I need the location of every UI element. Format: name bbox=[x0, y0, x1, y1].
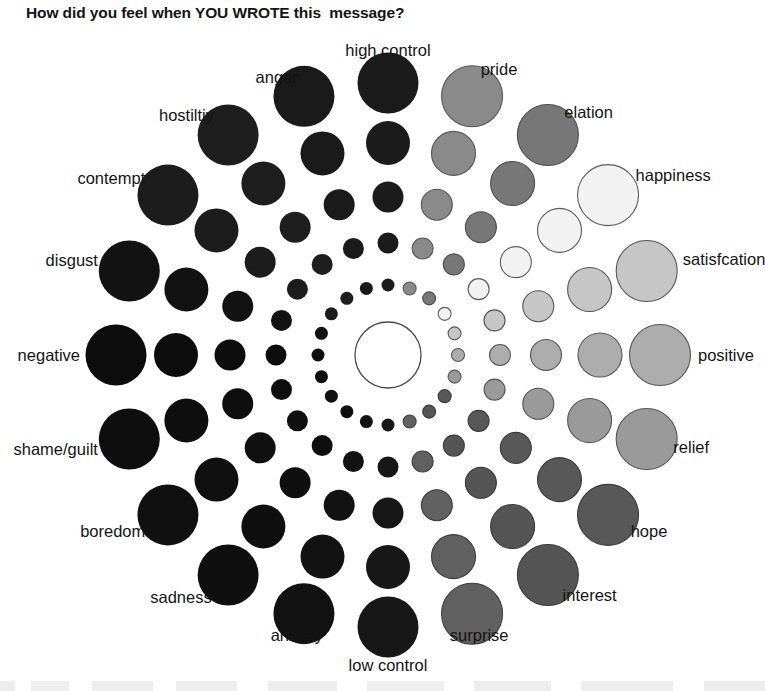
emotion-circle[interactable] bbox=[538, 208, 582, 252]
emotion-circle[interactable] bbox=[312, 349, 325, 362]
emotion-circle[interactable] bbox=[484, 379, 505, 400]
emotion-circle[interactable] bbox=[531, 340, 562, 371]
emotion-circle[interactable] bbox=[538, 458, 582, 502]
emotion-circle[interactable] bbox=[324, 189, 355, 220]
emotion-circle[interactable] bbox=[421, 490, 452, 521]
emotion-circle[interactable] bbox=[568, 399, 612, 443]
emotion-circle[interactable] bbox=[432, 535, 476, 579]
emotion-circle[interactable] bbox=[500, 432, 531, 463]
emotion-circle[interactable] bbox=[154, 333, 198, 377]
emotion-circle[interactable] bbox=[137, 484, 198, 545]
emotion-circle[interactable] bbox=[245, 432, 276, 463]
emotion-circle[interactable] bbox=[568, 267, 612, 311]
emotion-circle[interactable] bbox=[373, 498, 404, 529]
emotion-circle[interactable] bbox=[287, 279, 308, 300]
emotion-circle[interactable] bbox=[360, 415, 373, 428]
emotion-circle[interactable] bbox=[443, 254, 464, 275]
emotion-circle[interactable] bbox=[164, 267, 208, 311]
emotion-circle[interactable] bbox=[194, 458, 238, 502]
emotion-circle[interactable] bbox=[222, 291, 253, 322]
center-circle[interactable] bbox=[355, 322, 421, 388]
emotion-circle[interactable] bbox=[468, 410, 489, 431]
emotion-circle[interactable] bbox=[438, 307, 451, 320]
emotion-circle[interactable] bbox=[99, 240, 160, 301]
emotion-circle[interactable] bbox=[578, 484, 639, 545]
emotion-circle[interactable] bbox=[438, 390, 451, 403]
emotion-circle[interactable] bbox=[468, 279, 489, 300]
emotion-circle[interactable] bbox=[382, 419, 395, 432]
page-bottom-artifact bbox=[0, 681, 765, 691]
emotion-circle[interactable] bbox=[412, 238, 433, 259]
emotion-circle[interactable] bbox=[491, 505, 535, 549]
emotion-circle[interactable] bbox=[421, 189, 452, 220]
emotion-wheel-canvas[interactable]: high controlprideelationhappinesssatisfc… bbox=[0, 0, 765, 691]
emotion-circle[interactable] bbox=[312, 254, 333, 275]
emotion-circle[interactable] bbox=[300, 535, 344, 579]
emotion-circle[interactable] bbox=[484, 310, 505, 331]
emotion-circle[interactable] bbox=[423, 292, 436, 305]
emotion-circle[interactable] bbox=[465, 212, 496, 243]
emotion-circle[interactable] bbox=[443, 435, 464, 456]
emotion-circle[interactable] bbox=[324, 490, 355, 521]
emotion-circle[interactable] bbox=[523, 388, 554, 419]
emotion-circle[interactable] bbox=[86, 325, 147, 386]
emotion-circle[interactable] bbox=[266, 345, 287, 366]
emotion-circle[interactable] bbox=[378, 233, 399, 254]
emotion-circle[interactable] bbox=[465, 467, 496, 498]
emotion-circle[interactable] bbox=[490, 345, 511, 366]
emotion-circle[interactable] bbox=[403, 415, 416, 428]
emotion-circle[interactable] bbox=[315, 327, 328, 340]
emotion-circle[interactable] bbox=[366, 545, 410, 589]
emotion-circle[interactable] bbox=[358, 53, 419, 114]
emotion-circle[interactable] bbox=[325, 390, 338, 403]
emotion-circle[interactable] bbox=[378, 457, 399, 478]
emotion-label-relief: relief bbox=[673, 438, 709, 456]
emotion-circle[interactable] bbox=[500, 247, 531, 278]
emotion-circle[interactable] bbox=[137, 165, 198, 226]
emotion-wheel-svg[interactable]: high controlprideelationhappinesssatisfc… bbox=[0, 0, 765, 691]
emotion-circle[interactable] bbox=[271, 379, 292, 400]
emotion-circle[interactable] bbox=[491, 161, 535, 205]
emotion-circle[interactable] bbox=[360, 282, 373, 295]
emotion-circle[interactable] bbox=[343, 451, 364, 472]
emotion-circle[interactable] bbox=[578, 165, 639, 226]
emotion-circle[interactable] bbox=[366, 121, 410, 165]
emotion-circle[interactable] bbox=[241, 505, 285, 549]
emotion-circle[interactable] bbox=[280, 212, 311, 243]
emotion-circle[interactable] bbox=[382, 279, 395, 292]
emotion-circle[interactable] bbox=[271, 310, 292, 331]
emotion-circle[interactable] bbox=[452, 349, 465, 362]
emotion-circle[interactable] bbox=[448, 327, 461, 340]
emotion-circle[interactable] bbox=[373, 182, 404, 213]
emotion-circle[interactable] bbox=[630, 325, 691, 386]
emotion-circle[interactable] bbox=[358, 597, 419, 658]
emotion-circle[interactable] bbox=[523, 291, 554, 322]
emotion-circle[interactable] bbox=[164, 399, 208, 443]
emotion-circle[interactable] bbox=[215, 340, 246, 371]
emotion-circle[interactable] bbox=[432, 131, 476, 175]
emotion-circle[interactable] bbox=[241, 161, 285, 205]
emotion-circle[interactable] bbox=[287, 410, 308, 431]
emotion-circle[interactable] bbox=[448, 370, 461, 383]
emotion-circle[interactable] bbox=[194, 208, 238, 252]
emotion-label-interest: interest bbox=[563, 586, 618, 604]
emotion-circle[interactable] bbox=[245, 247, 276, 278]
emotion-circle[interactable] bbox=[578, 333, 622, 377]
emotion-circle[interactable] bbox=[343, 238, 364, 259]
emotion-circle[interactable] bbox=[412, 451, 433, 472]
emotion-circle[interactable] bbox=[280, 467, 311, 498]
emotion-circle[interactable] bbox=[325, 307, 338, 320]
emotion-label-low-control: low control bbox=[349, 656, 428, 674]
emotion-circle[interactable] bbox=[300, 131, 344, 175]
emotion-circle[interactable] bbox=[403, 282, 416, 295]
emotion-circle[interactable] bbox=[423, 405, 436, 418]
emotion-circle[interactable] bbox=[616, 240, 677, 301]
emotion-circle[interactable] bbox=[340, 292, 353, 305]
emotion-label-anger: anger bbox=[256, 68, 299, 86]
emotion-circle[interactable] bbox=[616, 409, 677, 470]
emotion-circle[interactable] bbox=[222, 388, 253, 419]
emotion-circle[interactable] bbox=[312, 435, 333, 456]
emotion-circle[interactable] bbox=[315, 370, 328, 383]
emotion-circle[interactable] bbox=[99, 409, 160, 470]
emotion-circle[interactable] bbox=[340, 405, 353, 418]
